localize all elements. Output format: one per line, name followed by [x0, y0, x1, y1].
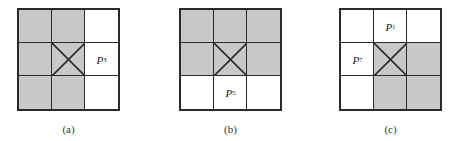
empty-cell [341, 10, 374, 43]
empty-cell: P7 [341, 43, 374, 76]
panel-c: P1P7 (c) [322, 0, 452, 141]
shaded-cell [52, 76, 85, 109]
shaded-cell [247, 10, 280, 43]
shaded-cell [214, 10, 247, 43]
shaded-cell [181, 43, 214, 76]
panel-a: P3 (a) [0, 0, 130, 141]
empty-cell: P5 [214, 76, 247, 109]
empty-cell [85, 76, 118, 109]
shaded-cell [19, 43, 52, 76]
shaded-cell [19, 10, 52, 43]
shaded-cell [407, 43, 440, 76]
pixel-label: P1 [374, 10, 407, 43]
shaded-cell [374, 76, 407, 109]
empty-cell [341, 76, 374, 109]
empty-cell [85, 10, 118, 43]
shaded-cell [52, 10, 85, 43]
grid-b: P5 [179, 8, 282, 111]
pixel-label: P3 [85, 43, 118, 76]
empty-cell [247, 76, 280, 109]
panel-b: P5 (b) [162, 0, 292, 141]
center-cell [214, 43, 247, 76]
x-cross-icon [374, 43, 407, 76]
empty-cell [181, 76, 214, 109]
empty-cell [407, 10, 440, 43]
grid-c: P1P7 [339, 8, 442, 111]
caption-b: (b) [179, 123, 282, 135]
shaded-cell [407, 76, 440, 109]
caption-c: (c) [339, 123, 442, 135]
empty-cell: P1 [374, 10, 407, 43]
pixel-label: P7 [341, 43, 374, 76]
pixel-label: P5 [214, 76, 247, 109]
shaded-cell [181, 10, 214, 43]
shaded-cell [247, 43, 280, 76]
center-cell [52, 43, 85, 76]
x-cross-icon [52, 43, 85, 76]
grid-a: P3 [17, 8, 120, 111]
center-cell [374, 43, 407, 76]
empty-cell: P3 [85, 43, 118, 76]
x-cross-icon [214, 43, 247, 76]
shaded-cell [19, 76, 52, 109]
caption-a: (a) [17, 123, 120, 135]
